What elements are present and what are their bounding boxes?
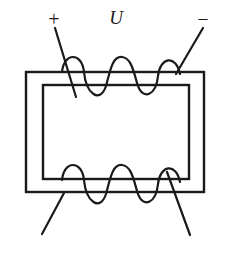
secondary-winding-coil: [62, 165, 180, 203]
voltage-label-u: U: [109, 7, 124, 28]
schematic-canvas: + U −: [0, 0, 225, 256]
core-inner-rectangle: [43, 85, 189, 179]
plus-terminal-label: +: [48, 8, 59, 30]
lead-wire-positive: [55, 28, 76, 97]
lead-wire-negative: [176, 28, 203, 74]
transformer-diagram: + U −: [0, 0, 225, 256]
lead-wire-secondary-left: [42, 193, 64, 234]
primary-winding-coil: [62, 57, 180, 95]
lead-wire-secondary-right: [167, 172, 190, 235]
minus-terminal-label: −: [197, 8, 208, 30]
